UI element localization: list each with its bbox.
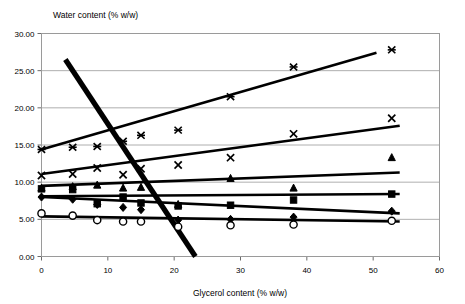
- y-tick-label: 10.00: [14, 178, 35, 187]
- x-tick-label: 20: [170, 266, 179, 275]
- x-tick-label: 30: [236, 266, 245, 275]
- x-tick-label: 40: [302, 266, 311, 275]
- grid-lines: [42, 34, 440, 220]
- y-tick-labels: 0.005.0010.0015.0020.0025.0030.00: [14, 30, 35, 262]
- series-cross-point: [290, 130, 297, 137]
- y-tick-label: 15.00: [14, 141, 35, 150]
- y-tick-label: 5.00: [19, 215, 35, 224]
- series-triangle-point: [388, 154, 395, 161]
- series-circle-point: [175, 223, 182, 230]
- chart-container: Water content (% w/w) 0.005.0010.0015.00…: [0, 0, 465, 304]
- series-asterisk-point: [290, 64, 298, 71]
- series-asterisk-point: [137, 132, 145, 139]
- x-tick-label: 10: [103, 266, 112, 275]
- x-tick-marks: [42, 257, 440, 261]
- series-cross-point: [69, 170, 76, 177]
- series-square-trendline: [42, 194, 400, 196]
- series-circle-point: [137, 218, 144, 225]
- series-diamond-point: [38, 193, 45, 201]
- y-axis-title: Water content (% w/w): [53, 10, 138, 20]
- series-circle-point: [388, 217, 395, 224]
- water-vs-glycerol-scatter-chart: Water content (% w/w) 0.005.0010.0015.00…: [0, 0, 465, 304]
- series-triangle-point: [137, 183, 144, 190]
- x-tick-label: 50: [369, 266, 378, 275]
- series-asterisk-point: [93, 143, 101, 150]
- series-square-point: [389, 191, 395, 197]
- series-square-point: [120, 194, 126, 200]
- x-tick-label: 60: [435, 266, 444, 275]
- series-square-point: [175, 203, 181, 209]
- series-triangle-point: [119, 184, 126, 191]
- series-circle-point: [227, 222, 234, 229]
- y-tick-marks: [38, 34, 42, 257]
- y-tick-label: 25.00: [14, 67, 35, 76]
- series-square-point: [69, 186, 75, 192]
- series-circle-point: [94, 216, 101, 223]
- series-diamond-point: [138, 206, 145, 214]
- series-circle-point: [38, 210, 45, 217]
- series-square-point: [227, 202, 233, 208]
- y-tick-label: 0.00: [19, 253, 35, 262]
- series-cross-point: [388, 115, 395, 122]
- series-triangle-trendline: [42, 173, 400, 186]
- y-tick-label: 20.00: [14, 104, 35, 113]
- series-asterisk-point: [174, 127, 182, 134]
- series-square-point: [290, 197, 296, 203]
- trend-lines: [42, 53, 400, 222]
- y-tick-label: 30.00: [14, 30, 35, 39]
- series-diamond-point: [120, 203, 127, 211]
- series-cross-point: [227, 154, 234, 161]
- series-cross-point: [175, 161, 182, 168]
- series-square-point: [38, 186, 44, 192]
- series-cross-point: [119, 171, 126, 178]
- x-tick-labels: 0102030405060: [39, 266, 444, 275]
- series-circle-point: [290, 221, 297, 228]
- data-markers: [38, 46, 396, 230]
- x-tick-label: 0: [39, 266, 44, 275]
- series-triangle-point: [290, 184, 297, 191]
- series-circle-point: [119, 218, 126, 225]
- series-asterisk-point: [388, 46, 396, 53]
- x-axis-title: Glycerol content (% w/w): [193, 288, 287, 298]
- series-circle-point: [69, 212, 76, 219]
